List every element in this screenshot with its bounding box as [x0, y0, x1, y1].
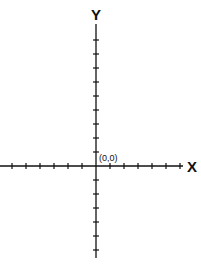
- y-axis-label: Y: [91, 6, 101, 23]
- coordinate-plane: X Y (0,0): [0, 0, 201, 274]
- x-axis-label: X: [187, 158, 197, 175]
- origin-label: (0,0): [99, 153, 118, 163]
